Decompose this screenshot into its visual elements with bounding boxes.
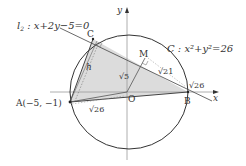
point-b-label: B [184, 96, 191, 106]
point-a [69, 101, 72, 104]
line-l2-label: l2 : x+2y−5=0 [17, 20, 90, 32]
point-m-label: M [139, 49, 148, 59]
height-h-label: h [86, 62, 92, 72]
oa-length-label: √26 [89, 105, 104, 114]
point-o-label: O [128, 94, 135, 104]
om-length-label: √5 [119, 72, 129, 81]
point-b [187, 91, 189, 93]
circle-c-label: C : x²+y²=26 [167, 43, 234, 54]
point-c-label: C [87, 29, 94, 39]
y-axis-label: y [116, 5, 123, 15]
point-a-label: A(−5, −1) [15, 98, 62, 108]
ob-length-label: √26 [189, 81, 204, 90]
x-axis-label: x [213, 93, 218, 103]
y-axis-arrow-icon [125, 7, 129, 13]
mb-length-label: √21 [158, 67, 173, 76]
geometry-diagram: l2 : x+2y−5=0 C : x²+y²=26 y x A(−5, −1)… [0, 0, 246, 166]
